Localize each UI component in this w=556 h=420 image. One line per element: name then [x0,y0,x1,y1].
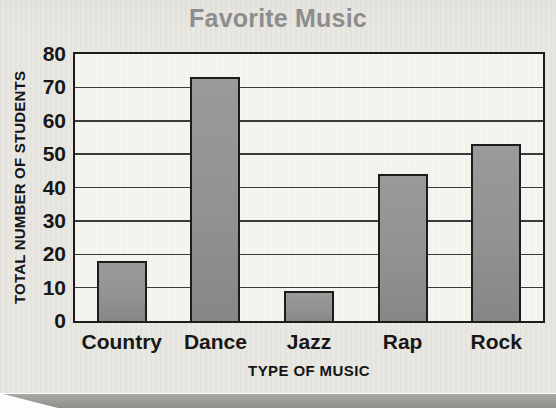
x-axis-title: TYPE OF MUSIC [248,362,370,379]
y-tick-label-70: 70 [22,76,66,97]
y-tick-label-60: 60 [22,110,66,131]
x-category-label-rock: Rock [471,331,522,352]
bar-dance [190,77,240,321]
scanned-chart-figure: Favorite Music TOTAL NUMBER OF STUDENTS … [0,0,556,420]
y-tick-label-20: 20 [22,243,66,264]
bar-country [97,261,147,321]
y-tick-label-50: 50 [22,143,66,164]
y-tick-label-40: 40 [22,177,66,198]
bar-jazz [284,291,334,321]
y-tick-label-30: 30 [22,210,66,231]
gridline-70 [75,87,543,89]
chart-title: Favorite Music [0,4,556,33]
x-category-label-rap: Rap [383,331,423,352]
y-tick-label-0: 0 [22,310,66,331]
bar-rock [471,144,521,321]
card-bottom-edge-shadow [0,394,556,408]
plot-area: TOTAL NUMBER OF STUDENTS TYPE OF MUSIC 0… [73,52,545,323]
x-category-label-jazz: Jazz [287,331,331,352]
bar-rap [378,174,428,321]
gridline-60 [75,120,543,122]
y-tick-label-80: 80 [22,43,66,64]
x-category-label-dance: Dance [184,331,247,352]
x-category-label-country: Country [82,331,163,352]
y-tick-label-10: 10 [22,277,66,298]
worksheet-card: Favorite Music TOTAL NUMBER OF STUDENTS … [0,0,556,393]
